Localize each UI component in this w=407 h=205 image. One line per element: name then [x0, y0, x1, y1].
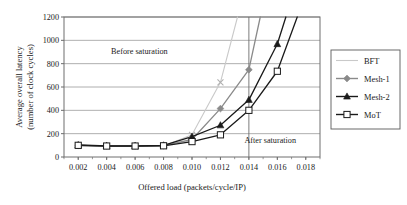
x-tick-label: 0.014: [240, 163, 258, 172]
x-tick-labels: 0.0020.0040.0060.0080.0100.0120.0140.016…: [69, 163, 315, 172]
y-axis-title-line1: Average overall latency: [14, 46, 24, 128]
data-point-marker-mot: [246, 107, 252, 113]
x-axis-title: Offered load (packets/cycle/IP): [138, 182, 246, 192]
annotation-after-saturation: After saturation: [244, 136, 296, 145]
x-tick-label: 0.006: [126, 163, 144, 172]
data-point-marker-mot: [274, 68, 280, 74]
legend-label-mesh-2: Mesh-2: [364, 93, 390, 102]
x-tick-label: 0.004: [97, 163, 115, 172]
y-tick-labels: 020040060080010001200: [43, 13, 59, 162]
legend: BFT Mesh-1 Mesh-2 MoT: [331, 50, 400, 129]
y-tick-label: 0: [55, 153, 59, 162]
x-tick-label: 0.010: [183, 163, 201, 172]
x-tick-label: 0.012: [211, 163, 229, 172]
x-tick-label: 0.008: [154, 163, 172, 172]
y-tick-label: 1200: [43, 13, 59, 22]
data-point-marker-mot: [189, 139, 195, 145]
chart-figure: 0.0020.0040.0060.0080.0100.0120.0140.016…: [0, 0, 407, 205]
x-tick-label: 0.018: [297, 163, 315, 172]
data-point-marker-mot: [75, 142, 81, 148]
data-point-marker-mot: [160, 143, 166, 149]
legend-label-mot: MoT: [364, 111, 381, 120]
data-point-marker-mot: [217, 132, 223, 138]
annotation-before-saturation: Before saturation: [111, 47, 168, 56]
y-tick-label: 200: [47, 130, 59, 139]
data-point-marker-mot: [132, 143, 138, 149]
x-tick-label: 0.016: [268, 163, 286, 172]
y-axis-title-line2: (number of clock cycles): [25, 44, 35, 130]
y-tick-label: 600: [47, 83, 59, 92]
y-tick-label: 400: [47, 106, 59, 115]
legend-label-mesh-1: Mesh-1: [364, 75, 390, 84]
legend-label-bft: BFT: [364, 57, 379, 66]
y-tick-label: 800: [47, 60, 59, 69]
x-tick-label: 0.002: [69, 163, 87, 172]
y-tick-label: 1000: [43, 36, 59, 45]
chart-svg: 0.0020.0040.0060.0080.0100.0120.0140.016…: [0, 0, 407, 205]
data-point-marker-mot: [104, 143, 110, 149]
